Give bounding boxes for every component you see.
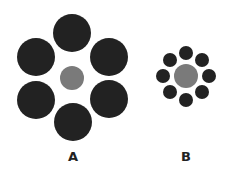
surround-circle [17,38,55,76]
surround-circle [195,53,209,67]
surround-circle [202,69,216,83]
surround-circle [156,69,170,83]
center-circle [60,66,84,90]
surround-circle [90,80,128,118]
surround-circle [179,46,193,60]
surround-circle [163,85,177,99]
illusion-canvas [0,0,231,182]
figure-a [17,14,128,141]
figure-b [156,46,216,107]
surround-circle [53,14,91,52]
figure-b-label: B [181,149,191,164]
surround-circle [54,103,92,141]
surround-circle [195,85,209,99]
surround-circle [163,53,177,67]
figure-a-label: A [68,149,78,164]
surround-circle [17,81,55,119]
center-circle [174,64,198,88]
surround-circle [90,38,128,76]
surround-circle [179,93,193,107]
